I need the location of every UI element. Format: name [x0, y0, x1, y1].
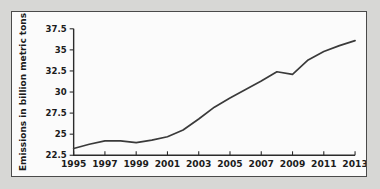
x-tick-label: 1995 [61, 159, 86, 169]
axis-lines [74, 29, 355, 155]
y-tick-label: 25 [55, 129, 67, 139]
x-tick-label: 2001 [155, 159, 180, 169]
y-tick-label: 35 [55, 45, 67, 55]
x-tick-label: 1997 [92, 159, 117, 169]
x-tick-label: 2013 [342, 159, 366, 169]
x-tick-label: 2005 [217, 159, 242, 169]
y-tick-label: 32.5 [46, 66, 67, 76]
chart-figure: 22.52527.53032.53537.5 19951997199920012… [11, 11, 367, 177]
y-tick-label: 27.5 [46, 108, 67, 118]
x-tick-label: 2009 [280, 159, 305, 169]
x-tick-label: 2011 [311, 159, 336, 169]
y-tick-label: 37.5 [46, 24, 67, 34]
emissions-line-series [74, 41, 355, 149]
y-tick-label: 30 [55, 87, 67, 97]
x-tick-label: 2007 [249, 159, 274, 169]
x-tick-label: 2003 [186, 159, 211, 169]
y-axis-tick-labels: 22.52527.53032.53537.5 [46, 24, 67, 160]
y-axis-title: Emissions in billion metric tons [18, 13, 28, 171]
line-chart: 22.52527.53032.53537.5 19951997199920012… [12, 12, 366, 176]
x-axis-tick-labels: 1995199719992001200320052007200920112013 [61, 159, 366, 169]
x-tick-label: 1999 [123, 159, 148, 169]
